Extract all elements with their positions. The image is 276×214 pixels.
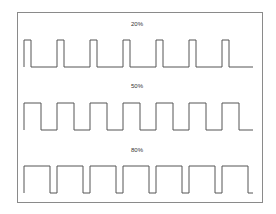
waveform-50-percent: [24, 103, 253, 130]
pwm-waveforms: [0, 0, 276, 214]
waveform-80-percent: [24, 166, 253, 193]
waveform-20-percent: [24, 40, 253, 67]
